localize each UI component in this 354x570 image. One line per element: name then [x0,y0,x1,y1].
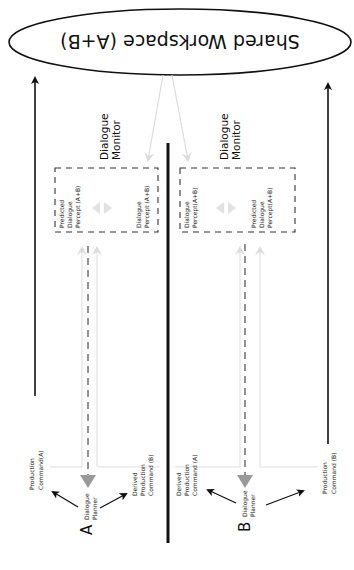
predicted-percept-a: Predicted Dialogue Percept (A+B) [58,186,82,228]
svg-text:Percept(A+B): Percept(A+B) [266,187,274,228]
svg-text:Planner: Planner [91,497,98,520]
compare-arrows-b [216,202,236,214]
shared-workspace-label: Shared Workspace (A+B) [60,31,300,53]
feedback-lines-b [175,248,318,467]
svg-text:Dialogue: Dialogue [66,201,74,228]
svg-text:Command (B): Command (B) [147,454,154,496]
percept-a: Dialogue Percept (A+B) [135,186,151,228]
diagram-canvas: Shared Workspace (A+B) Dialogue Monitor … [0,0,354,570]
predicted-percept-b: Predicted Dialogue Percept(A+B) [250,187,274,228]
agent-a-label: A [78,524,96,535]
svg-text:Dialogue: Dialogue [241,490,249,517]
svg-text:Command (A): Command (A) [191,454,198,496]
planner-b-to-derived-arrow [208,490,236,503]
planner-b-to-production-arrow [266,491,303,505]
svg-text:Production: Production [183,464,190,496]
shared-workspace: Shared Workspace (A+B) [9,9,351,75]
svg-text:Dialogue: Dialogue [83,493,91,520]
percept-b: Dialogue Percept(A+B) [183,187,199,228]
svg-text:Percept(A+B): Percept(A+B) [191,187,199,228]
dialogue-planner-b: B Dialogue Planner [236,490,256,532]
agent-b-label: B [236,522,254,532]
production-command-b-label: Production Command (B) [321,452,337,494]
svg-text:Derived: Derived [175,472,182,496]
svg-text:Command(A): Command(A) [37,450,44,490]
planner-arrow-head-b [237,475,253,488]
planner-a-to-production-arrow [53,492,78,507]
monitor-b-line1: Dialogue [218,113,230,160]
svg-text:Production: Production [28,458,35,490]
svg-text:Predicted: Predicted [250,200,257,228]
svg-text:Command (B): Command (B) [330,452,337,494]
svg-text:Predicted: Predicted [58,200,65,228]
svg-text:Planner: Planner [249,494,256,517]
monitor-a-line1: Dialogue [98,113,110,160]
planner-a-to-derived-arrow [100,494,126,508]
derived-command-b-label: Derived Production Command (B) [131,454,154,496]
planner-arrow-head-a [80,475,96,488]
svg-text:Dialogue: Dialogue [183,201,191,228]
monitor-a-line2: Monitor [110,119,122,160]
derived-command-a-label: Derived Production Command (A) [175,454,198,496]
svg-text:Production: Production [321,462,328,494]
svg-text:Dialogue: Dialogue [135,201,143,228]
production-command-a-label: Production Command(A) [28,450,44,490]
feedback-lines-a [50,248,160,467]
dialogue-planner-a: A Dialogue Planner [78,493,98,535]
monitor-b-line2: Monitor [230,119,242,160]
svg-text:Dialogue: Dialogue [258,201,266,228]
compare-arrows-a [92,202,112,214]
svg-text:Production: Production [139,464,146,496]
svg-text:Percept (A+B): Percept (A+B) [74,186,82,228]
svg-text:Derived: Derived [131,472,138,496]
svg-text:Percept (A+B): Percept (A+B) [143,186,151,228]
